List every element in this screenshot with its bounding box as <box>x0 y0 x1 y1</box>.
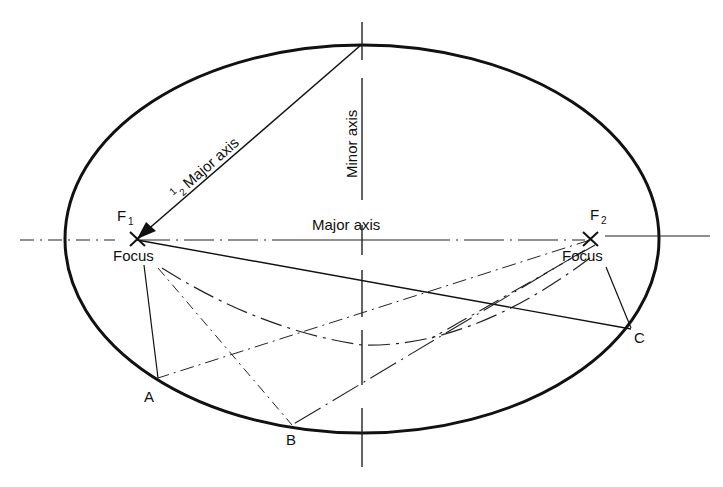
focus-right-label: Focus <box>562 247 603 264</box>
f1-label: F 1 <box>117 207 134 227</box>
svg-text:F: F <box>117 207 126 224</box>
major-axis-label: Major axis <box>312 216 380 233</box>
point-b-label: B <box>286 431 296 448</box>
half-major-axis-arrow <box>145 45 361 232</box>
point-a-label: A <box>144 388 154 405</box>
svg-text:Major axis: Major axis <box>179 134 242 192</box>
svg-text:2: 2 <box>601 215 607 226</box>
f2-label: F 2 <box>590 206 607 226</box>
focus-f2-marker <box>583 232 598 246</box>
point-c-label: C <box>634 329 645 346</box>
f1-to-c-line <box>137 240 631 329</box>
f1-to-a-line <box>144 265 158 378</box>
f1-to-b-line <box>158 268 292 425</box>
ellipse-diagram: 1 2 Major axis Minor axis Major axis F 1… <box>0 0 723 487</box>
svg-text:F: F <box>590 206 599 223</box>
svg-text:1: 1 <box>128 216 134 227</box>
focus-left-label: Focus <box>113 247 154 264</box>
minor-axis-label: Minor axis <box>343 110 360 178</box>
f2-to-c-line <box>606 267 631 328</box>
half-major-axis-label: 1 2 Major axis <box>167 134 242 203</box>
construction-arc <box>162 258 590 345</box>
focus-f1-marker <box>130 232 145 246</box>
f2-to-a-line <box>158 240 590 378</box>
major-axis-line <box>20 236 710 240</box>
